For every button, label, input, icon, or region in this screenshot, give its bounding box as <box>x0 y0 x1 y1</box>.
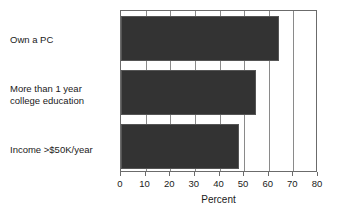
category-label-college-education: More than 1 year college education <box>10 83 114 106</box>
category-label-income: Income >$50K/year <box>10 144 114 156</box>
tick-mark-80 <box>317 172 318 176</box>
tick-mark-40 <box>219 172 220 176</box>
x-tick-label: 50 <box>230 178 256 189</box>
x-tick-label: 10 <box>132 178 158 189</box>
tick-mark-0 <box>120 172 121 176</box>
tick-mark-10 <box>145 172 146 176</box>
x-axis-title: Percent <box>120 194 317 205</box>
x-tick-label: 0 <box>107 178 133 189</box>
tick-mark-60 <box>268 172 269 176</box>
tick-mark-20 <box>169 172 170 176</box>
tick-mark-70 <box>292 172 293 176</box>
bar <box>121 70 256 115</box>
plot-area <box>120 10 317 172</box>
x-tick-label: 70 <box>279 178 305 189</box>
tick-mark-30 <box>194 172 195 176</box>
bar <box>121 124 239 169</box>
x-tick-label: 80 <box>304 178 330 189</box>
x-tick-label: 60 <box>255 178 281 189</box>
tick-mark-50 <box>243 172 244 176</box>
gridline-70 <box>293 11 294 171</box>
x-tick-label: 30 <box>181 178 207 189</box>
bar-chart: Own a PC More than 1 year college educat… <box>0 0 340 217</box>
x-tick-label: 40 <box>206 178 232 189</box>
bar <box>121 16 279 61</box>
x-tick-label: 20 <box>156 178 182 189</box>
category-label-own-a-pc: Own a PC <box>10 34 114 46</box>
